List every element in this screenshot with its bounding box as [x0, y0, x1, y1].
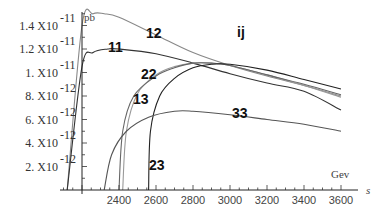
curve-label-12: 12 — [146, 25, 162, 41]
x-axis-label: s — [366, 184, 370, 196]
y-tick-exponent: -11 — [60, 34, 76, 48]
x-tick-label: 3200 — [255, 194, 279, 206]
x-tick-label: 3600 — [329, 194, 353, 206]
curve-label-13: 13 — [133, 91, 149, 107]
y-tick-label: 8. X10 — [25, 89, 58, 103]
y-tick-label: 1.4 X10 — [19, 19, 58, 33]
x-tick-label: 2600 — [144, 194, 168, 206]
axes: 2400260028003000320034003600 2. X10-124.… — [19, 11, 358, 207]
y-tick-label: 4. X10 — [25, 136, 58, 150]
y-unit-label: pb — [84, 11, 96, 23]
y-tick-label: 1. X10 — [25, 66, 58, 80]
cross-section-chart: 2400260028003000320034003600 2. X10-124.… — [0, 0, 387, 215]
curve-label-11: 11 — [108, 39, 123, 55]
x-unit-label: Gev — [331, 168, 350, 180]
y-tick-exponent: -11 — [60, 58, 76, 72]
curve-label-22: 22 — [141, 66, 157, 82]
series-curves — [67, 9, 341, 190]
y-tick-exponent: -12 — [60, 152, 76, 166]
curve-label-23: 23 — [149, 157, 165, 173]
x-tick-label: 3400 — [292, 194, 316, 206]
x-ticks: 2400260028003000320034003600 — [64, 185, 354, 206]
x-tick-label: 3000 — [218, 194, 242, 206]
x-tick-label: 2400 — [107, 194, 131, 206]
curve-label-33: 33 — [232, 105, 248, 121]
y-tick-exponent: -12 — [60, 105, 76, 119]
y-tick-label: 6. X10 — [25, 113, 58, 127]
curve-labels: 121122132333ij — [108, 24, 248, 173]
y-tick-exponent: -11 — [60, 11, 76, 25]
curve-23 — [149, 64, 341, 190]
y-tick-label: 1.2 X10 — [19, 42, 58, 56]
y-ticks: 2. X10-124. X10-126. X10-128. X10-121. X… — [19, 11, 87, 179]
curve-33 — [104, 111, 341, 190]
x-tick-label: 2800 — [181, 194, 205, 206]
y-tick-exponent: -12 — [60, 81, 76, 95]
y-tick-label: 2. X10 — [25, 160, 58, 174]
y-tick-exponent: -12 — [60, 128, 76, 142]
chart-title: ij — [237, 24, 245, 40]
curve-12 — [67, 9, 341, 190]
